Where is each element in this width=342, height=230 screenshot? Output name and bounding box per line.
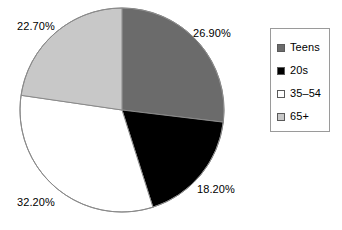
legend-item-20s[interactable]: 20s — [277, 59, 329, 82]
legend-item-35-54[interactable]: 35–54 — [277, 82, 329, 105]
legend-label-20s: 20s — [290, 65, 308, 76]
slice-label-65plus: 22.70% — [17, 21, 55, 32]
square-swatch-icon — [277, 90, 285, 98]
legend-item-65plus[interactable]: 65+ — [277, 105, 329, 128]
legend-label-65plus: 65+ — [290, 111, 309, 122]
square-swatch-icon — [277, 113, 285, 121]
legend-label-teens: Teens — [290, 42, 320, 53]
slice-label-20s: 18.20% — [197, 184, 235, 195]
pie-chart: 22.70% 26.90% 18.20% 32.20% Teens 20s 35… — [0, 0, 342, 230]
slice-label-35-54: 32.20% — [17, 197, 55, 208]
square-swatch-icon — [277, 44, 285, 52]
pie-slice-teens[interactable] — [122, 8, 224, 122]
slice-label-teens: 26.90% — [193, 28, 231, 39]
square-swatch-icon — [277, 67, 285, 75]
chart-legend: Teens 20s 35–54 65+ — [270, 28, 330, 132]
legend-item-teens[interactable]: Teens — [277, 36, 329, 59]
legend-label-35-54: 35–54 — [290, 88, 321, 99]
